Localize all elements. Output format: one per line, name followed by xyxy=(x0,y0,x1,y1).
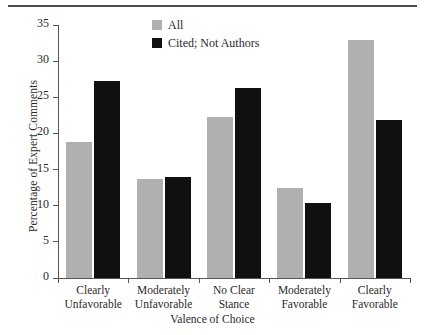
plot-area: 05101520253035 xyxy=(58,25,410,278)
x-axis-title: Valence of Choice xyxy=(0,313,425,325)
bar-all xyxy=(137,179,163,278)
bar-all xyxy=(348,40,374,278)
bar-cited xyxy=(165,177,191,278)
y-tick-label: 30 xyxy=(37,52,49,67)
bar-cited xyxy=(376,120,402,278)
bar-cited xyxy=(305,203,331,278)
y-tick-label: 35 xyxy=(37,16,49,31)
legend-item: All xyxy=(152,17,259,33)
bar-group xyxy=(269,25,339,278)
x-tick-mark xyxy=(199,278,200,283)
bar-all xyxy=(66,142,92,278)
y-tick-label: 10 xyxy=(37,197,49,212)
legend-swatch-cited xyxy=(152,38,162,48)
x-tick-mark xyxy=(58,278,59,283)
legend-item: Cited; Not Authors xyxy=(152,35,259,51)
bar-cited xyxy=(94,81,120,278)
chart-legend: AllCited; Not Authors xyxy=(152,17,259,53)
bar-group xyxy=(199,25,269,278)
x-tick-label-line: Clearly xyxy=(334,284,416,298)
legend-swatch-all xyxy=(152,20,162,30)
bar-group xyxy=(128,25,198,278)
bar-group xyxy=(58,25,128,278)
x-axis-line xyxy=(58,278,411,279)
y-tick-label: 5 xyxy=(43,233,49,248)
x-tick-mark xyxy=(269,278,270,283)
bar-all xyxy=(207,117,233,278)
y-tick-label: 15 xyxy=(37,161,49,176)
bar-all xyxy=(277,188,303,278)
x-tick-mark xyxy=(340,278,341,283)
y-tick-label: 25 xyxy=(37,88,49,103)
legend-label: Cited; Not Authors xyxy=(168,36,259,51)
x-tick-mark xyxy=(410,278,411,283)
x-tick-label-line: Favorable xyxy=(334,298,416,312)
y-axis-title: Percentage of Expert Comments xyxy=(27,31,39,281)
x-tick-mark xyxy=(128,278,129,283)
bar-group xyxy=(340,25,410,278)
legend-label: All xyxy=(168,18,183,33)
bar-cited xyxy=(235,88,261,278)
bar-chart-figure: Percentage of Expert Comments 0510152025… xyxy=(0,0,425,335)
x-tick-label: ClearlyFavorable xyxy=(334,284,416,311)
y-tick-label: 0 xyxy=(43,269,49,284)
y-tick-label: 20 xyxy=(37,124,49,139)
